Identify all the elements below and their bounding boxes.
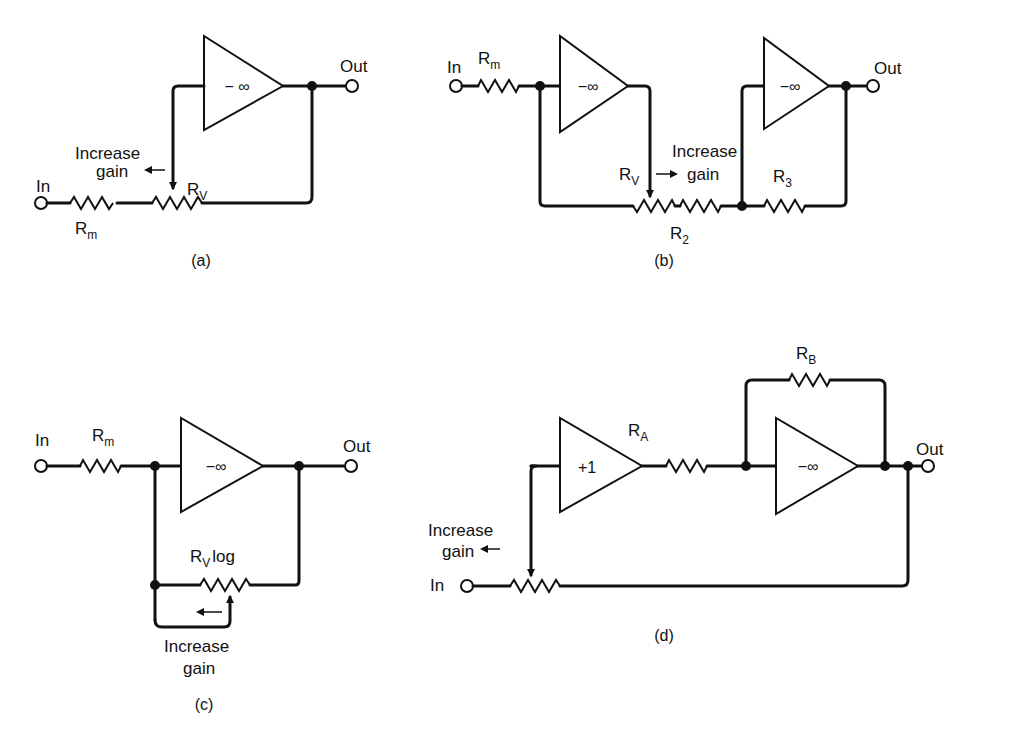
increase-label: Increase <box>672 142 737 161</box>
caption-c: (c) <box>195 696 214 713</box>
resistor-rb <box>789 374 830 386</box>
increase-label: Increase <box>75 144 140 163</box>
rm-label: Rm <box>92 426 114 449</box>
output-label: Out <box>343 437 371 456</box>
output-label: Out <box>340 57 368 76</box>
input-label: In <box>35 431 49 450</box>
gain-label: gain <box>687 165 719 184</box>
output-terminal <box>867 80 879 92</box>
wiper-arrow <box>173 86 204 188</box>
output-label: Out <box>916 440 944 459</box>
caption-d: (d) <box>654 627 674 644</box>
input-label: In <box>430 576 444 595</box>
increase-label: Increase <box>428 521 493 540</box>
opamp-2-label: −∞ <box>780 78 801 95</box>
gain-label: gain <box>96 162 128 181</box>
output-label: Out <box>874 59 902 78</box>
resistor-r3 <box>764 200 805 212</box>
panel-d: +1 −∞ In Out RA RB Increase gain (d) <box>428 344 944 644</box>
input-label: In <box>447 58 461 77</box>
potentiometer-rv <box>633 200 675 212</box>
opamp-label: −∞ <box>206 458 227 475</box>
gain-label: gain <box>183 659 215 678</box>
ra-label: RA <box>628 421 648 444</box>
output-terminal <box>345 460 357 472</box>
caption-b: (b) <box>654 252 674 269</box>
potentiometer <box>510 580 560 592</box>
resistor-rm <box>478 80 519 92</box>
rm-label: Rm <box>478 49 500 72</box>
junction-node <box>841 81 851 91</box>
rm-label: Rm <box>75 219 97 242</box>
caption-a: (a) <box>191 252 211 269</box>
input-terminal <box>461 580 473 592</box>
opamp-label: − ∞ <box>224 78 249 95</box>
output-terminal <box>922 460 934 472</box>
rv-log-label: RVlog <box>190 547 235 570</box>
input-terminal <box>35 197 47 209</box>
panel-b: −∞ −∞ In Out Rm RV R2 R3 Increase gain (… <box>447 36 902 269</box>
buffer-label: +1 <box>578 459 596 476</box>
panel-c: −∞ In Out Rm RVlog Increase gain (c) <box>35 418 371 713</box>
increase-label: Increase <box>164 637 229 656</box>
wiper-arrow <box>531 466 536 575</box>
resistor-rm <box>80 460 121 472</box>
rb-label: RB <box>796 344 816 367</box>
input-terminal <box>35 460 47 472</box>
junction-node <box>150 580 160 590</box>
panel-a: − ∞ In Out Rm RV Increase gain (a) <box>35 36 368 269</box>
rv-label: RV <box>619 165 639 188</box>
opamp-1-label: −∞ <box>578 78 599 95</box>
potentiometer-rv-log <box>200 579 250 591</box>
gain-label: gain <box>442 542 474 561</box>
r3-label: R3 <box>773 167 792 190</box>
junction-node <box>903 461 913 471</box>
resistor-rm <box>70 197 113 209</box>
junction-node <box>880 461 890 471</box>
input-terminal <box>450 80 462 92</box>
opamp-label: −∞ <box>798 458 819 475</box>
resistor-r2 <box>680 200 721 212</box>
junction-node <box>307 81 317 91</box>
r2-label: R2 <box>670 224 689 247</box>
input-label: In <box>36 177 50 196</box>
circuit-diagram: − ∞ In Out Rm RV Increase gain (a) −∞ −∞… <box>0 0 1022 746</box>
resistor-ra <box>666 460 707 472</box>
output-terminal <box>346 80 358 92</box>
